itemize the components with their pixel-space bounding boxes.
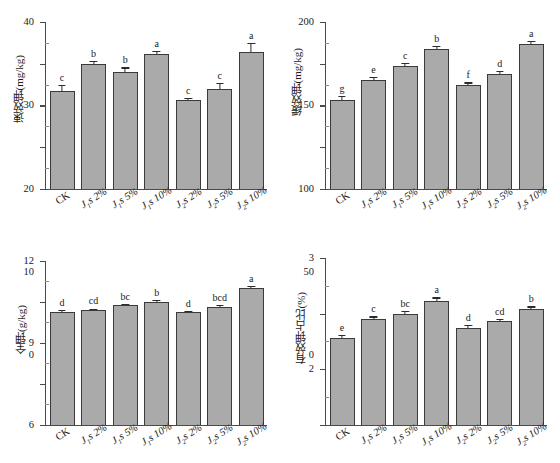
- y-tick-mark: 30: [40, 64, 45, 65]
- x-label-slot: J2s 5%: [484, 192, 516, 193]
- bar-slot: bcd: [204, 261, 236, 425]
- x-label-slot: J1s 2%: [77, 428, 109, 429]
- x-tick-label: J2s 5%: [205, 422, 236, 448]
- significance-letter: a: [249, 31, 253, 41]
- x-label-slot: J1s 2%: [357, 192, 389, 193]
- x-label-slot: CK: [45, 192, 77, 193]
- significance-letter: cd: [89, 296, 98, 306]
- x-label-slot: J1s 10%: [420, 428, 452, 429]
- y-tick-mark: 0: [40, 425, 45, 426]
- bar-slot: b: [421, 22, 453, 189]
- y-tick-mark: 9: [40, 302, 45, 303]
- x-label-slot: CK: [325, 192, 357, 193]
- plot-area: 0123 ecbcadcdb: [325, 258, 547, 426]
- bar: [330, 100, 355, 189]
- error-bar: [251, 43, 252, 52]
- bar-slot: c: [172, 22, 204, 189]
- x-tick-label: J2s 2%: [454, 422, 485, 448]
- bar-slot: a: [235, 261, 267, 425]
- bar-slot: d: [172, 261, 204, 425]
- x-tick-label: J1s 2%: [79, 186, 110, 212]
- panel-available-potassium-ratio: 有效钾占比(%) 0123 ecbcadcdb CKJ1s 2%J1s 5%J1…: [280, 232, 560, 463]
- bar-slot: c: [358, 258, 390, 425]
- bar: [207, 89, 232, 189]
- bar: [456, 85, 481, 188]
- x-axis-labels: CKJ1s 2%J1s 5%J1s 10%J2s 2%J2s 5%J2s 10%: [45, 428, 267, 429]
- x-axis-line: [325, 189, 547, 190]
- x-label-slot: CK: [325, 428, 357, 429]
- y-tick-mark: 0: [40, 189, 45, 190]
- bar-slot: bc: [109, 261, 141, 425]
- y-tick-mark: 150: [320, 64, 325, 65]
- x-label-slot: CK: [45, 428, 77, 429]
- x-label-slot: J1s 5%: [388, 192, 420, 193]
- bar-group: dcdbcbdbcda: [46, 261, 267, 425]
- x-label-slot: J1s 5%: [108, 428, 140, 429]
- bar-slot: bc: [389, 258, 421, 425]
- significance-letter: b: [529, 294, 534, 304]
- bar: [144, 54, 169, 189]
- bar-slot: d: [452, 258, 484, 425]
- y-tick-mark: 2: [320, 314, 325, 315]
- x-tick-label: J1s 2%: [359, 422, 390, 448]
- significance-letter: b: [91, 49, 96, 59]
- figure-four-panel-bar-charts: 速效钾(mg/kg) 010203040 cbbacca CKJ1s 2%J1s…: [0, 0, 560, 463]
- bar: [176, 312, 201, 425]
- x-tick-label: J1s 2%: [79, 422, 110, 448]
- error-bar: [61, 85, 62, 92]
- y-tick-label: 30: [24, 100, 35, 111]
- bar-group: gecbfda: [326, 22, 547, 189]
- bar: [519, 44, 544, 189]
- x-label-slot: J1s 2%: [357, 428, 389, 429]
- significance-letter: g: [340, 84, 345, 94]
- bar: [487, 74, 512, 189]
- bar-slot: f: [452, 22, 484, 189]
- y-tick-mark: 12: [40, 261, 45, 262]
- y-tick-mark: 1: [320, 369, 325, 370]
- bar-slot: d: [484, 22, 516, 189]
- x-label-slot: J2s 2%: [452, 192, 484, 193]
- x-tick-label: J2s 5%: [485, 186, 516, 212]
- x-label-slot: J2s 5%: [484, 428, 516, 429]
- bar: [50, 91, 75, 189]
- x-tick-label: J2s 2%: [454, 186, 485, 212]
- bar-slot: c: [46, 22, 78, 189]
- bar-slot: a: [421, 258, 453, 425]
- y-tick-mark: 50: [320, 147, 325, 148]
- x-tick-label: J2s 5%: [485, 422, 516, 448]
- x-label-slot: J1s 5%: [388, 428, 420, 429]
- bar-slot: b: [141, 261, 173, 425]
- bar-slot: a: [515, 22, 547, 189]
- bar-slot: cd: [78, 261, 110, 425]
- significance-letter: c: [217, 71, 221, 81]
- bar: [81, 310, 106, 425]
- significance-letter: c: [371, 304, 375, 314]
- x-label-slot: J1s 10%: [140, 192, 172, 193]
- bar-slot: b: [109, 22, 141, 189]
- x-label-slot: J2s 5%: [204, 428, 236, 429]
- y-tick-label: 3: [309, 253, 314, 264]
- y-tick-label: 2: [309, 364, 314, 375]
- x-axis-labels: CKJ1s 2%J1s 5%J1s 10%J2s 2%J2s 5%J2s 10%: [325, 428, 547, 429]
- bar: [144, 302, 169, 425]
- bar: [176, 100, 201, 188]
- significance-letter: f: [467, 70, 470, 80]
- y-axis-title: 有效钾占比(%): [296, 292, 307, 364]
- bar: [330, 338, 355, 425]
- x-tick-label: J1s 5%: [390, 422, 421, 448]
- x-tick-label: CK: [334, 190, 352, 207]
- bar: [393, 66, 418, 189]
- x-axis-line: [325, 425, 547, 426]
- y-tick-label: 150: [298, 100, 314, 111]
- y-tick-label: 9: [29, 338, 34, 349]
- bar: [239, 52, 264, 188]
- plot-area: 010203040 cbbacca: [45, 22, 267, 190]
- y-tick-label: 100: [298, 183, 314, 194]
- panel-available-potassium: 速效钾(mg/kg) 010203040 cbbacca CKJ1s 2%J1s…: [0, 0, 280, 232]
- x-axis-labels: CKJ1s 2%J1s 5%J1s 10%J2s 2%J2s 5%J2s 10%: [325, 192, 547, 193]
- plot-area: 050100150200 gecbfda: [325, 22, 547, 190]
- bar: [424, 301, 449, 424]
- bar-slot: cd: [484, 258, 516, 425]
- x-axis-line: [45, 425, 267, 426]
- significance-letter: c: [186, 86, 190, 96]
